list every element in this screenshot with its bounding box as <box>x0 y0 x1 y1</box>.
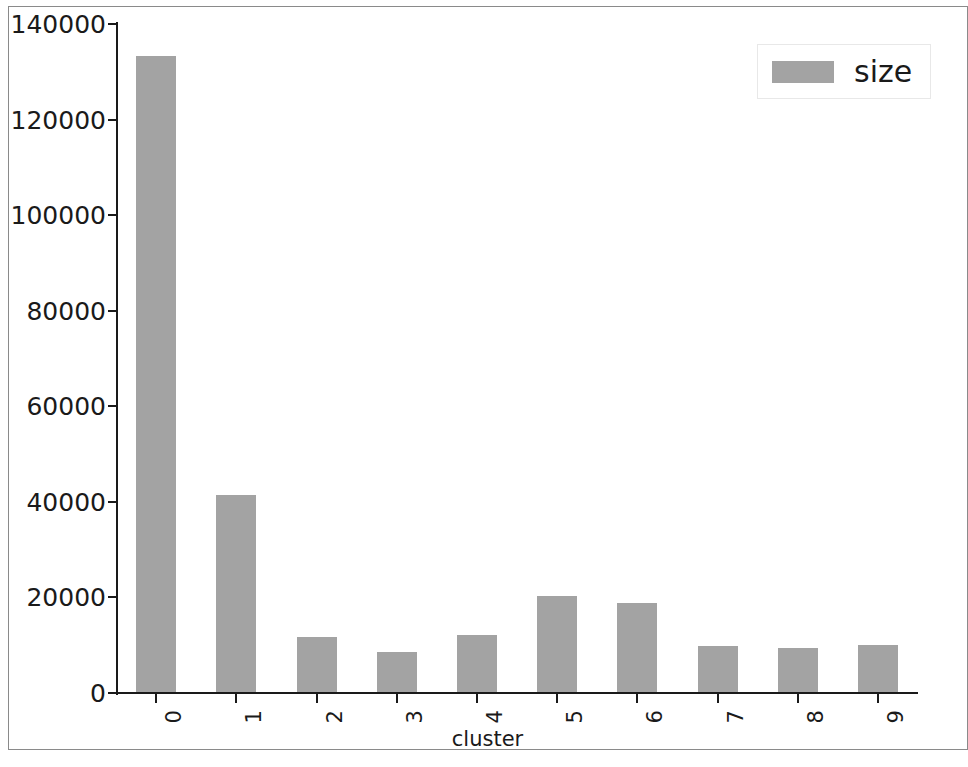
bar-0 <box>136 56 176 693</box>
x-axis-title: cluster <box>0 727 935 751</box>
bar-8 <box>778 648 818 693</box>
x-tick-label-0: 0 <box>164 710 185 723</box>
legend-label-size: size <box>854 57 912 87</box>
bar-1 <box>216 495 256 693</box>
y-tick-40000 <box>108 501 116 503</box>
y-tick-label-20000: 20000 <box>26 585 106 610</box>
x-tick-label-8: 8 <box>806 710 827 723</box>
x-tick-1 <box>235 694 237 703</box>
x-tick-6 <box>636 694 638 703</box>
y-tick-120000 <box>108 119 116 121</box>
x-tick-label-2: 2 <box>325 710 346 723</box>
bars-layer <box>0 0 935 693</box>
x-tick-5 <box>556 694 558 703</box>
x-tick-4 <box>476 694 478 703</box>
x-tick-8 <box>797 694 799 703</box>
y-tick-0 <box>108 692 116 694</box>
y-tick-label-0: 0 <box>90 681 106 706</box>
x-tick-label-3: 3 <box>405 710 426 723</box>
x-tick-0 <box>155 694 157 703</box>
y-tick-label-120000: 120000 <box>11 107 106 132</box>
y-tick-100000 <box>108 214 116 216</box>
y-tick-label-40000: 40000 <box>26 489 106 514</box>
x-tick-label-6: 6 <box>645 710 666 723</box>
bar-7 <box>698 646 738 693</box>
bar-6 <box>617 603 657 693</box>
y-tick-140000 <box>108 23 116 25</box>
chart-legend: size <box>757 44 931 99</box>
y-tick-label-80000: 80000 <box>26 298 106 323</box>
bar-5 <box>537 596 577 693</box>
x-tick-label-7: 7 <box>726 710 747 723</box>
legend-swatch-size <box>772 61 834 83</box>
y-tick-80000 <box>108 310 116 312</box>
y-tick-label-60000: 60000 <box>26 394 106 419</box>
y-tick-60000 <box>108 405 116 407</box>
x-tick-3 <box>396 694 398 703</box>
y-tick-label-140000: 140000 <box>11 12 106 37</box>
x-tick-2 <box>316 694 318 703</box>
x-tick-label-9: 9 <box>886 710 907 723</box>
y-axis-spine <box>116 22 118 695</box>
bar-9 <box>858 645 898 693</box>
bar-2 <box>297 637 337 693</box>
bar-3 <box>377 652 417 693</box>
bar-4 <box>457 635 497 693</box>
x-tick-9 <box>877 694 879 703</box>
x-tick-label-1: 1 <box>244 710 265 723</box>
y-tick-20000 <box>108 596 116 598</box>
x-tick-label-5: 5 <box>565 710 586 723</box>
x-tick-label-4: 4 <box>485 710 506 723</box>
x-tick-7 <box>717 694 719 703</box>
y-tick-label-100000: 100000 <box>11 203 106 228</box>
